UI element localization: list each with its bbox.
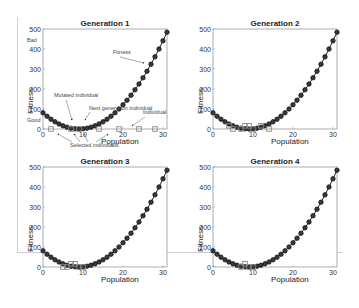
fitness-marker	[141, 214, 145, 218]
fitness-marker	[137, 220, 141, 224]
fitness-marker	[105, 255, 109, 259]
fitness-marker	[149, 200, 153, 204]
fitness-marker	[101, 258, 105, 262]
fitness-marker	[219, 255, 223, 259]
x-tick-label: 0	[41, 131, 45, 138]
axes-box	[213, 167, 337, 267]
fitness-marker	[291, 241, 295, 245]
fitness-marker	[299, 93, 303, 97]
x-tick-label: 0	[211, 131, 215, 138]
fitness-marker	[41, 111, 45, 115]
figure-canvas: Generation 101002003004005000102030Popul…	[0, 0, 359, 308]
fitness-marker	[275, 255, 279, 259]
fitness-marker	[165, 30, 169, 34]
y-tick-label: 500	[29, 164, 41, 171]
x-tick-label: 10	[249, 131, 257, 138]
fitness-marker	[157, 47, 161, 51]
fitness-marker	[287, 245, 291, 249]
x-axis-label: Population	[271, 275, 309, 284]
fitness-marker	[211, 249, 215, 253]
fitness-marker	[153, 55, 157, 59]
y-tick-label: 300	[199, 204, 211, 211]
x-axis-label: Population	[271, 137, 309, 146]
y-tick-label: 300	[29, 66, 41, 73]
fitness-marker	[335, 30, 339, 34]
y-tick-label: 300	[199, 66, 211, 73]
fitness-marker	[133, 88, 137, 92]
y-axis-label: Fitness	[26, 226, 35, 252]
subplot-title: Generation 1	[81, 19, 130, 28]
subplot-3: Generation 301002003004005000102030Popul…	[26, 157, 169, 284]
y-tick-label: 400	[29, 184, 41, 191]
fitness-marker	[141, 76, 145, 80]
fitness-marker	[145, 69, 149, 73]
fitness-marker	[129, 93, 133, 97]
fitness-marker	[311, 76, 315, 80]
fitness-marker	[315, 69, 319, 73]
fitness-marker	[307, 220, 311, 224]
fitness-marker	[49, 255, 53, 259]
fitness-marker	[271, 258, 275, 262]
fitness-marker	[279, 252, 283, 256]
x-tick-label: 30	[329, 131, 337, 138]
fitness-marker	[335, 168, 339, 172]
y-tick-label: 400	[199, 46, 211, 53]
fitness-marker	[287, 107, 291, 111]
fitness-marker	[291, 103, 295, 107]
x-axis-label: Population	[101, 275, 139, 284]
fitness-marker	[153, 193, 157, 197]
x-tick-label: 0	[41, 269, 45, 276]
subplot-title: Generation 4	[251, 157, 300, 166]
fitness-marker	[299, 231, 303, 235]
fitness-marker	[323, 55, 327, 59]
fitness-marker	[295, 98, 299, 102]
subplot-title: Generation 2	[251, 19, 300, 28]
fitness-marker	[161, 177, 165, 181]
fitness-marker	[311, 214, 315, 218]
fitness-marker	[275, 117, 279, 121]
x-tick-label: 10	[79, 269, 87, 276]
x-tick-label: 10	[79, 131, 87, 138]
y-tick-label: 500	[199, 164, 211, 171]
fitness-marker	[161, 39, 165, 43]
subplot-2: Generation 201002003004005000102030Popul…	[196, 19, 339, 146]
y-axis-label: Fitness	[196, 88, 205, 114]
fitness-marker	[215, 252, 219, 256]
y-tick-label: 400	[29, 46, 41, 53]
x-tick-label: 30	[159, 131, 167, 138]
fitness-marker	[125, 236, 129, 240]
x-tick-label: 10	[249, 269, 257, 276]
fitness-marker	[113, 249, 117, 253]
annotation-good: Good	[27, 117, 40, 123]
fitness-marker	[125, 98, 129, 102]
subplot-1: Generation 101002003004005000102030Popul…	[26, 19, 169, 146]
annotation-mutated: Mutated individual	[54, 92, 98, 98]
fitness-marker	[121, 241, 125, 245]
annotation-fitness: Fitness	[113, 49, 131, 55]
fitness-marker	[165, 168, 169, 172]
fitness-marker	[45, 114, 49, 118]
fitness-marker	[215, 114, 219, 118]
fitness-marker	[133, 226, 137, 230]
fitness-marker	[219, 117, 223, 121]
y-axis-label: Fitness	[26, 88, 35, 114]
annotation-selected: Selected individuals	[70, 142, 119, 148]
axes-box	[43, 167, 167, 267]
fitness-marker	[327, 185, 331, 189]
annotation-bad: Bad	[27, 37, 37, 43]
axes-box	[213, 29, 337, 129]
fitness-marker	[149, 62, 153, 66]
fitness-marker	[279, 114, 283, 118]
x-tick-label: 30	[159, 269, 167, 276]
fitness-marker	[303, 226, 307, 230]
fitness-marker	[49, 117, 53, 121]
y-tick-label: 500	[29, 26, 41, 33]
fitness-marker	[283, 111, 287, 115]
fitness-marker	[315, 207, 319, 211]
subplot-4: Generation 401002003004005000102030Popul…	[196, 157, 339, 284]
fitness-marker	[145, 207, 149, 211]
fitness-marker	[113, 111, 117, 115]
y-tick-label: 300	[29, 204, 41, 211]
x-tick-label: 0	[211, 269, 215, 276]
fitness-marker	[129, 231, 133, 235]
